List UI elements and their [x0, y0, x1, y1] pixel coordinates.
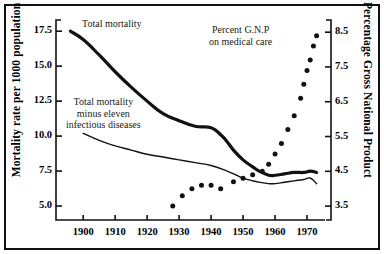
annotation-line: Percent G.N.P [209, 24, 272, 36]
annotation-line: infectious diseases [66, 119, 141, 131]
plot-area [0, 0, 384, 254]
annotation-total-mortality-minus: Total mortalityminus eleveninfectious di… [66, 96, 141, 131]
y-tick-label-right: 8.5 [335, 25, 365, 36]
figure-root: Mortality rate per 1000 population Perce… [0, 0, 384, 254]
annotation-total-mortality: Total mortality [82, 18, 142, 30]
x-tick-label: 1970 [287, 226, 327, 237]
y-tick-label-left: 12.5 [18, 94, 52, 105]
annotation-line: Total mortality [82, 18, 142, 30]
y-tick-label-right: 3.5 [335, 199, 365, 210]
y-tick-label-right: 7.5 [335, 60, 365, 71]
y-tick-label-left: 5.0 [18, 199, 52, 210]
y-tick-label-right: 5.5 [335, 130, 365, 141]
y-tick-label-left: 7.5 [18, 164, 52, 175]
series-percent-gnp-dots [170, 33, 319, 208]
annotation-line: minus eleven [66, 108, 141, 120]
annotation-line: Total mortality [66, 96, 141, 108]
y-tick-label-left: 15.0 [18, 59, 52, 70]
y-tick-label-right: 6.5 [335, 95, 365, 106]
plot-canvas [0, 0, 384, 254]
y-tick-label-left: 10.0 [18, 129, 52, 140]
annotation-line: on medical care [209, 36, 272, 48]
annotation-percent-gnp: Percent G.N.Pon medical care [209, 24, 272, 47]
y-tick-label-left: 17.5 [18, 24, 52, 35]
y-tick-label-right: 4.5 [335, 164, 365, 175]
series-total-mortality-minus-line [83, 133, 316, 184]
